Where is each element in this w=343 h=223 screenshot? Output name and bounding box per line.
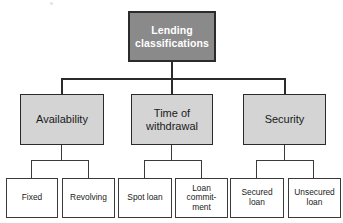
edge-bus-availability bbox=[31, 160, 89, 161]
node-category-security[interactable]: Security bbox=[243, 94, 326, 145]
edge-drop-security bbox=[284, 78, 286, 95]
edge-stem-security bbox=[284, 145, 285, 161]
node-leaf-revolving[interactable]: Revolving bbox=[62, 178, 115, 218]
scan-artifact bbox=[50, 2, 53, 5]
edge-stem-availability bbox=[61, 145, 62, 161]
edge-drop-secured-loan bbox=[256, 160, 257, 178]
edge-drop-spot-loan bbox=[144, 160, 145, 178]
node-leaf-spot-loan[interactable]: Spot loan bbox=[118, 178, 172, 218]
node-root[interactable]: Lending classifications bbox=[128, 11, 216, 62]
edge-bus-time-of-withdrawal bbox=[144, 160, 202, 161]
node-category-availability[interactable]: Availability bbox=[20, 94, 104, 145]
node-leaf-unsecured-loan[interactable]: Unsecured loan bbox=[288, 178, 341, 218]
edge-drop-fixed bbox=[31, 160, 32, 178]
edge-drop-loan-commitment bbox=[201, 160, 202, 178]
node-leaf-loan-commitment[interactable]: Loan commit- ment bbox=[175, 178, 228, 218]
node-category-time-of-withdrawal[interactable]: Time of withdrawal bbox=[131, 94, 213, 145]
diagram-canvas: Lending classifications Availability Tim… bbox=[0, 0, 343, 223]
edge-bus-security bbox=[256, 160, 314, 161]
edge-drop-availability bbox=[61, 78, 63, 95]
edge-main-bus bbox=[61, 78, 286, 80]
edge-drop-unsecured-loan bbox=[313, 160, 314, 178]
edge-root-stem bbox=[171, 62, 173, 79]
edge-stem-time-of-withdrawal bbox=[171, 145, 172, 161]
node-leaf-fixed[interactable]: Fixed bbox=[6, 178, 58, 218]
edge-drop-revolving bbox=[88, 160, 89, 178]
node-leaf-secured-loan[interactable]: Secured loan bbox=[230, 178, 284, 218]
edge-drop-time-of-withdrawal bbox=[171, 78, 173, 95]
